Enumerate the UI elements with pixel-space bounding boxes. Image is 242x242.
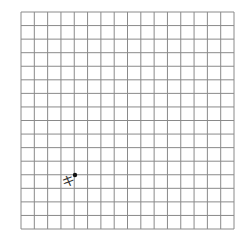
grid-lines xyxy=(21,12,234,229)
annotation-label: キ xyxy=(61,174,76,189)
grid-canvas xyxy=(0,0,242,242)
